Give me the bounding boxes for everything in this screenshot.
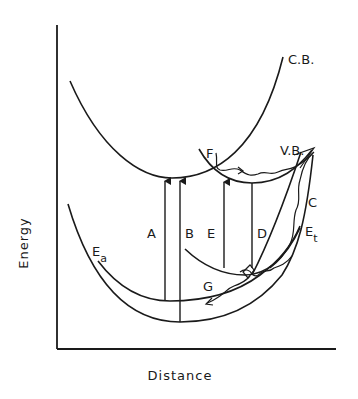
x-axis-label: Distance <box>148 368 213 383</box>
label-B: B <box>185 226 194 241</box>
label-A: A <box>147 226 156 241</box>
transition-line-D <box>252 152 301 275</box>
label-F: F <box>206 146 213 161</box>
valence-band-label: V.B. <box>280 143 304 158</box>
configuration-coordinate-diagram: Energy Distance C.B. Ea F V.B. Et A B E … <box>0 0 358 399</box>
label-C: C <box>308 195 317 210</box>
trap-state-curve <box>185 228 300 275</box>
label-G: G <box>203 279 213 294</box>
label-D: D <box>257 226 267 241</box>
label-E: E <box>207 226 215 241</box>
activated-state-subscript: a <box>100 252 107 265</box>
axes <box>57 25 336 349</box>
trap-state-label: Et <box>305 224 318 245</box>
wavy-path-G <box>207 276 250 303</box>
y-axis-label: Energy <box>16 217 31 269</box>
activated-state-label: Ea <box>92 244 107 265</box>
conduction-band-label: C.B. <box>288 52 314 67</box>
conduction-band-curve <box>70 57 283 178</box>
trap-state-subscript: t <box>313 232 318 245</box>
